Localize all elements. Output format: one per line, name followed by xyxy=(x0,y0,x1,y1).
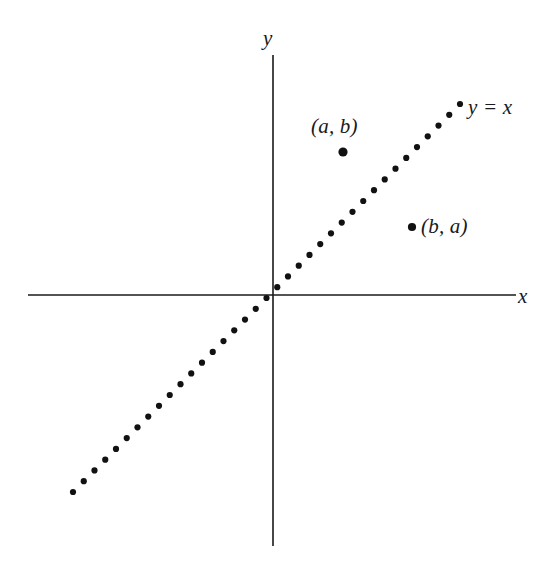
x-axis-label: x xyxy=(518,286,528,307)
line-dot xyxy=(124,435,130,441)
line-dot xyxy=(91,467,97,473)
line-dot xyxy=(167,392,173,398)
line-dot xyxy=(220,338,226,344)
line-dot xyxy=(210,349,216,355)
figure-canvas: y x y = x (a, b) (b, a) xyxy=(0,0,556,573)
point-ab-marker xyxy=(338,147,347,156)
line-dot xyxy=(285,273,291,279)
line-dot xyxy=(328,230,334,236)
line-dot xyxy=(425,133,431,139)
line-dot xyxy=(102,457,108,463)
line-dot xyxy=(360,198,366,204)
line-dot xyxy=(145,413,151,419)
line-dot xyxy=(113,446,119,452)
line-dot xyxy=(403,155,409,161)
line-dot xyxy=(296,263,302,269)
line-dot xyxy=(274,284,280,290)
point-ba-label: (b, a) xyxy=(421,216,468,237)
line-dot xyxy=(253,306,259,312)
line-dot xyxy=(199,360,205,366)
line-dot xyxy=(435,122,441,128)
line-equation-label: y = x xyxy=(468,97,512,118)
y-axis-label: y xyxy=(263,28,273,49)
point-ba-marker xyxy=(408,223,416,231)
line-dot xyxy=(457,101,463,107)
line-dot xyxy=(81,478,87,484)
line-dot xyxy=(231,327,237,333)
line-dot xyxy=(414,144,420,150)
line-dot xyxy=(177,381,183,387)
identity-line-dotted xyxy=(70,101,463,495)
line-dot xyxy=(242,316,248,322)
line-dot xyxy=(392,166,398,172)
line-dot xyxy=(371,187,377,193)
line-dot xyxy=(382,176,388,182)
line-dot xyxy=(70,489,76,495)
line-dot xyxy=(349,209,355,215)
point-ab-label: (a, b) xyxy=(311,116,358,137)
line-dot xyxy=(317,241,323,247)
line-dot xyxy=(306,252,312,258)
line-dot xyxy=(339,219,345,225)
line-dot xyxy=(446,112,452,118)
line-dot xyxy=(188,370,194,376)
line-dot xyxy=(134,424,140,430)
line-dot xyxy=(263,295,269,301)
line-dot xyxy=(156,403,162,409)
coordinate-plane-svg xyxy=(0,0,556,573)
